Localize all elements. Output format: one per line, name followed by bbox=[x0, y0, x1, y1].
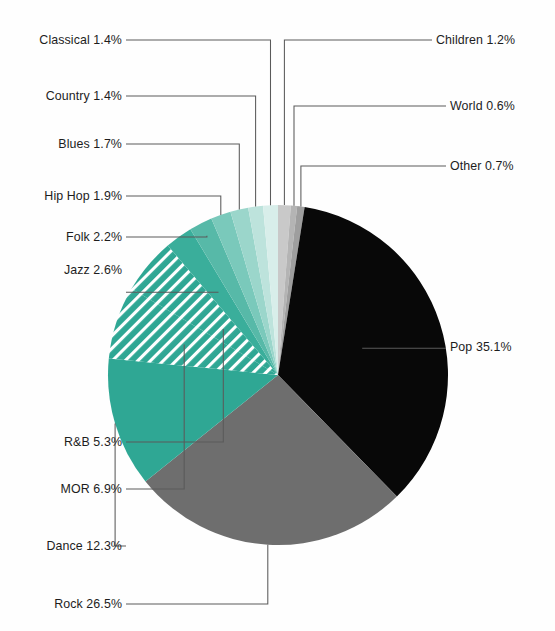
slice-label-classical: Classical 1.4% bbox=[6, 34, 122, 46]
slice-label-hiphop: Hip Hop 1.9% bbox=[6, 190, 122, 202]
slice-label-pop: Pop 35.1% bbox=[450, 341, 512, 353]
leader-line-blues bbox=[126, 144, 239, 210]
leader-line-classical bbox=[126, 40, 271, 205]
slice-label-folk: Folk 2.2% bbox=[6, 231, 122, 243]
leader-line-hip-hop bbox=[126, 196, 221, 215]
leader-line-country bbox=[126, 96, 256, 207]
slice-label-country: Country 1.4% bbox=[6, 90, 122, 102]
leader-line-children bbox=[284, 40, 432, 205]
slice-label-children: Children 1.2% bbox=[436, 34, 515, 46]
leader-line-world bbox=[294, 106, 446, 206]
slice-label-world: World 0.6% bbox=[450, 100, 515, 112]
slice-label-dance: Dance 12.3% bbox=[6, 540, 122, 552]
slice-label-rock: Rock 26.5% bbox=[6, 598, 122, 610]
slice-label-mor: MOR 6.9% bbox=[6, 483, 122, 495]
slice-label-jazz: Jazz 2.6% bbox=[6, 264, 122, 276]
pie-chart-figure: Classical 1.4% Country 1.4% Blues 1.7% H… bbox=[0, 0, 555, 631]
leader-line-other bbox=[301, 166, 446, 207]
leader-line-rock bbox=[126, 545, 268, 604]
slice-label-rnb: R&B 5.3% bbox=[6, 436, 122, 448]
pie-slices-group bbox=[108, 205, 448, 545]
slice-label-other: Other 0.7% bbox=[450, 160, 514, 172]
slice-label-blues: Blues 1.7% bbox=[6, 138, 122, 150]
